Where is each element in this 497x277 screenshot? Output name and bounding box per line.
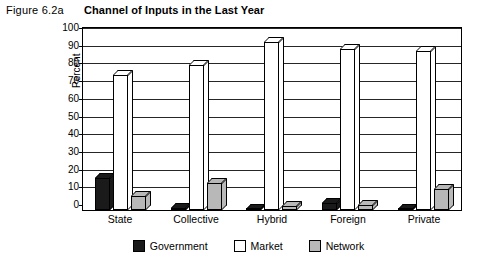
bar-front-face — [322, 203, 337, 210]
x-axis-tick-label: Hybrid — [237, 213, 307, 225]
bar-government-foreign — [322, 203, 337, 210]
legend-swatch — [234, 240, 246, 252]
legend-swatch — [309, 240, 321, 252]
legend-label: Market — [251, 240, 283, 252]
y-axis-tick-label: 30 — [68, 147, 79, 157]
bar-network-hybrid — [282, 206, 297, 210]
y-axis-tick-label: 20 — [68, 165, 79, 175]
x-axis-tick-label: Foreign — [313, 213, 383, 225]
bar-front-face — [189, 65, 204, 210]
y-axis-tick-label: 70 — [68, 76, 79, 86]
bar-groups — [83, 28, 461, 210]
x-axis-labels: StateCollectiveHybridForeignPrivate — [82, 213, 462, 225]
chart-title: Channel of Inputs in the Last Year — [84, 4, 264, 16]
bar-network-collective — [207, 183, 222, 210]
legend-item-network: Network — [309, 240, 365, 252]
bar-front-face — [131, 196, 146, 210]
x-axis-tick-label: State — [85, 213, 155, 225]
bar-market-state — [113, 75, 128, 210]
y-axis-tick-label: 90 — [68, 41, 79, 51]
chart-page: Figure 6.2a Channel of Inputs in the Las… — [0, 0, 497, 277]
x-axis-tick-label: Private — [389, 213, 459, 225]
bar-group — [322, 28, 373, 210]
legend-swatch — [133, 240, 145, 252]
bar-front-face — [95, 178, 110, 210]
bar-market-hybrid — [264, 42, 279, 210]
y-axis-tick-label: 60 — [68, 94, 79, 104]
bar-front-face — [398, 208, 413, 210]
bar-front-face — [434, 189, 449, 210]
bar-front-face — [416, 51, 431, 210]
bar-front-face — [171, 208, 186, 210]
bar-side-face — [431, 46, 436, 210]
bar-front-face — [113, 75, 128, 210]
bar-market-private — [416, 51, 431, 210]
bar-group — [398, 28, 449, 210]
figure-label: Figure 6.2a — [6, 4, 64, 16]
y-axis-tick-label: 10 — [68, 182, 79, 192]
bar-network-private — [434, 189, 449, 210]
bar-front-face — [282, 206, 297, 210]
y-axis-tick-label: 100 — [62, 23, 79, 33]
chart-legend: GovernmentMarketNetwork — [0, 240, 497, 252]
legend-label: Network — [326, 240, 365, 252]
bar-government-private — [398, 209, 413, 211]
bar-front-face — [358, 205, 373, 210]
bar-side-face — [449, 184, 454, 210]
bar-side-face — [222, 178, 227, 210]
bar-front-face — [246, 208, 261, 210]
bar-side-face — [128, 70, 133, 210]
bar-market-collective — [189, 65, 204, 210]
legend-label: Government — [150, 240, 208, 252]
bar-side-face — [355, 44, 360, 210]
bar-front-face — [264, 42, 279, 210]
y-axis-tick-label: 80 — [68, 58, 79, 68]
bar-group — [246, 28, 297, 210]
bar-group — [95, 28, 146, 210]
bar-front-face — [340, 49, 355, 210]
bar-network-state — [131, 196, 146, 210]
bar-group — [171, 28, 222, 210]
y-axis-tick-label: 40 — [68, 129, 79, 139]
bar-network-foreign — [358, 205, 373, 210]
bar-government-state — [95, 178, 110, 210]
legend-item-government: Government — [133, 240, 208, 252]
bar-side-face — [279, 37, 284, 210]
bar-government-hybrid — [246, 209, 261, 211]
y-axis-tick-label: 50 — [68, 112, 79, 122]
legend-item-market: Market — [234, 240, 283, 252]
x-axis-tick-label: Collective — [161, 213, 231, 225]
plot-area: Percent 0102030405060708090100 — [82, 27, 462, 211]
bar-market-foreign — [340, 49, 355, 210]
bar-side-face — [146, 191, 151, 210]
bar-front-face — [207, 183, 222, 210]
bar-government-collective — [171, 208, 186, 210]
